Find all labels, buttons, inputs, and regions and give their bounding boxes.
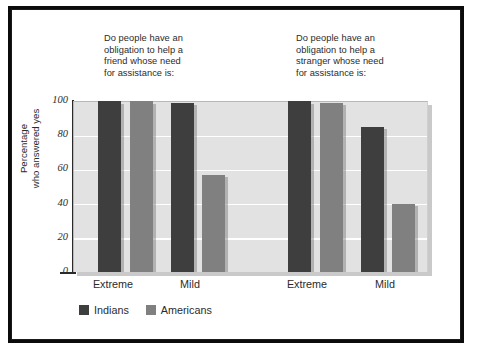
plot-area <box>73 101 428 272</box>
bar-fill <box>392 204 415 272</box>
x-label-friend-extreme: Extreme <box>93 278 133 290</box>
bar-indians-stranger-extreme <box>288 101 311 272</box>
bar-americans-friend-extreme <box>130 101 153 272</box>
bar-indians-friend-mild <box>171 103 194 272</box>
y-tick-100: 100 <box>34 94 68 105</box>
bar-fill <box>130 101 153 272</box>
bar-fill <box>320 103 343 272</box>
x-axis-zero-tick <box>60 272 76 274</box>
x-label-stranger-extreme: Extreme <box>287 278 327 290</box>
legend-label-indians: Indians <box>94 304 129 316</box>
y-tick-40: 40 <box>34 197 68 208</box>
legend-swatch-icon-americans <box>146 305 156 315</box>
bar-americans-stranger-mild <box>392 204 415 272</box>
figure-container: Do people have an obligation to help a f… <box>0 0 478 355</box>
y-tick-60: 60 <box>34 162 68 173</box>
y-tick-80: 80 <box>34 128 68 139</box>
bar-shadow <box>194 105 197 272</box>
bar-fill <box>171 103 194 272</box>
bar-shadow <box>311 104 314 273</box>
y-tick-0: 0 <box>34 265 68 276</box>
legend-item-indians: Indians <box>79 304 129 316</box>
bar-shadow <box>343 105 346 272</box>
bar-shadow <box>153 104 156 273</box>
y-tick-20: 20 <box>34 231 68 242</box>
bar-fill <box>98 101 121 272</box>
bar-shadow <box>121 104 124 273</box>
bar-fill <box>202 175 225 272</box>
panel-caption-stranger: Do people have an obligation to help a s… <box>296 33 426 79</box>
bar-shadow <box>225 177 228 272</box>
legend-label-americans: Americans <box>161 304 212 316</box>
plot-region <box>73 101 428 272</box>
bar-shadow <box>415 206 418 272</box>
legend-swatch-icon-indians <box>79 305 89 315</box>
panel-caption-friend: Do people have an obligation to help a f… <box>104 33 229 79</box>
bar-indians-stranger-mild <box>361 127 384 272</box>
bar-fill <box>288 101 311 272</box>
chart-legend: Indians Americans <box>79 304 212 316</box>
plot-shadow-bottom <box>77 272 432 276</box>
bar-indians-friend-extreme <box>98 101 121 272</box>
bar-americans-friend-mild <box>202 175 225 272</box>
bar-americans-stranger-extreme <box>320 103 343 272</box>
y-axis-ticks: 100 80 60 40 20 0 <box>30 0 68 355</box>
legend-item-americans: Americans <box>146 304 212 316</box>
x-label-stranger-mild: Mild <box>375 278 395 290</box>
plot-shadow-right <box>428 105 432 276</box>
bar-shadow <box>384 129 387 272</box>
x-label-friend-mild: Mild <box>180 278 200 290</box>
bar-fill <box>361 127 384 272</box>
